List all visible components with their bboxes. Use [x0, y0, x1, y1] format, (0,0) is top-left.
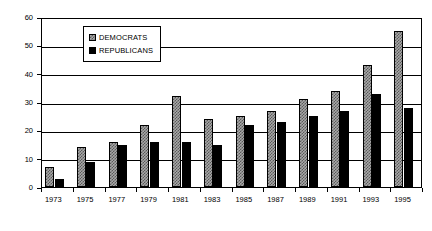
x-tick-label: 1995 — [394, 196, 411, 204]
x-tick-label: 1973 — [45, 196, 62, 204]
x-tick-label: 1987 — [267, 196, 284, 204]
bar-democrats-1989 — [299, 99, 308, 187]
y-tick-label: 10 — [25, 156, 33, 164]
bar-republicans-1981 — [182, 142, 191, 187]
bar-republicans-1977 — [118, 145, 127, 188]
x-tick-label: 1993 — [362, 196, 379, 204]
x-tick-mark — [168, 188, 169, 192]
x-tick-label: 1991 — [331, 196, 348, 204]
x-tick-label: 1989 — [299, 196, 316, 204]
bar-republicans-1987 — [277, 122, 286, 187]
x-tick-mark — [359, 188, 360, 192]
bar-republicans-1989 — [309, 116, 318, 187]
x-axis: 1973197519771979198119831985198719891991… — [41, 192, 422, 212]
x-tick-label: 1983 — [204, 196, 221, 204]
bar-republicans-1983 — [213, 145, 222, 188]
bar-democrats-1977 — [109, 142, 118, 187]
x-tick-label: 1977 — [108, 196, 125, 204]
x-tick-mark — [232, 188, 233, 192]
bar-democrats-1991 — [331, 91, 340, 187]
y-axis: 0102030405060 — [0, 0, 41, 231]
legend-label: DEMOCRATS — [99, 34, 147, 42]
bar-democrats-1979 — [140, 125, 149, 187]
bar-democrats-1995 — [394, 31, 403, 187]
democrats-swatch — [89, 34, 96, 41]
x-tick-mark — [327, 188, 328, 192]
bar-republicans-1995 — [404, 108, 413, 187]
x-tick-mark — [390, 188, 391, 192]
y-tick-label: 60 — [25, 14, 33, 22]
x-tick-mark — [295, 188, 296, 192]
x-tick-mark — [263, 188, 264, 192]
bar-democrats-1993 — [363, 65, 372, 187]
legend-item-democrats: DEMOCRATS — [89, 31, 153, 44]
x-tick-label: 1985 — [235, 196, 252, 204]
x-tick-mark — [41, 188, 42, 192]
bar-democrats-1975 — [77, 147, 86, 187]
republicans-swatch — [89, 47, 96, 54]
bar-democrats-1985 — [236, 116, 245, 187]
bar-democrats-1981 — [172, 96, 181, 187]
bar-republicans-1991 — [340, 111, 349, 188]
bar-republicans-1993 — [372, 94, 381, 188]
bar-democrats-1983 — [204, 119, 213, 187]
x-tick-label: 1981 — [172, 196, 189, 204]
bar-democrats-1987 — [267, 111, 276, 188]
bar-republicans-1979 — [150, 142, 159, 187]
bar-chart: 0102030405060 19731975197719791981198319… — [0, 0, 432, 231]
x-tick-label: 1975 — [77, 196, 94, 204]
bar-republicans-1973 — [55, 179, 64, 188]
x-tick-mark — [73, 188, 74, 192]
y-tick-label: 30 — [25, 99, 33, 107]
y-tick-label: 40 — [25, 71, 33, 79]
legend-label: REPUBLICANS — [99, 47, 153, 55]
x-tick-mark — [136, 188, 137, 192]
y-tick-label: 0 — [29, 184, 33, 192]
y-tick-label: 50 — [25, 43, 33, 51]
bar-republicans-1985 — [245, 125, 254, 187]
legend-item-republicans: REPUBLICANS — [89, 44, 153, 57]
x-tick-mark — [105, 188, 106, 192]
x-tick-mark — [200, 188, 201, 192]
chart-legend: DEMOCRATSREPUBLICANS — [83, 26, 161, 62]
x-tick-mark — [422, 188, 423, 192]
x-tick-label: 1979 — [140, 196, 157, 204]
bar-democrats-1973 — [45, 167, 54, 187]
bar-republicans-1975 — [86, 162, 95, 188]
y-tick-label: 20 — [25, 128, 33, 136]
